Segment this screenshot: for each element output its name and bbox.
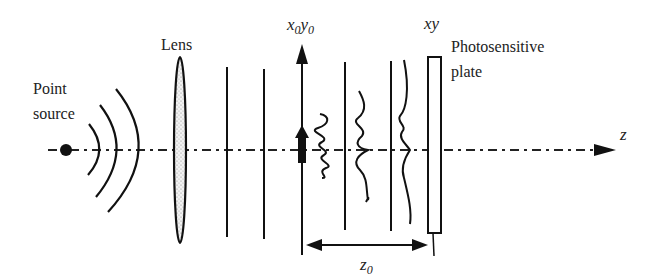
lens-label: Lens [161, 36, 192, 53]
distance-left-arrow-icon [306, 239, 322, 251]
distance-right-arrow-icon [412, 239, 428, 251]
plate-label-2: plate [451, 63, 482, 81]
axis-arrow-icon [594, 144, 616, 156]
plate-pointer [433, 233, 434, 256]
axis-label: z [619, 125, 627, 144]
photosensitive-plate [428, 57, 441, 233]
object [298, 138, 306, 163]
point-source-label: Point [33, 80, 67, 97]
object-arrow-icon [295, 125, 309, 138]
plate-label: Photosensitive [451, 38, 544, 55]
point-source [60, 144, 72, 156]
point-source-label-2: source [33, 105, 75, 122]
object-plane-arrow-icon [296, 44, 308, 64]
diffracted-waves [315, 60, 411, 224]
holography-setup-diagram: Point source Lens x0y0 xy Photosensitive… [0, 0, 653, 280]
lens [174, 57, 186, 243]
object-plane-label: x0y0 [286, 15, 314, 37]
distance-label: z0 [359, 255, 373, 277]
image-plane-label: xy [423, 14, 440, 33]
